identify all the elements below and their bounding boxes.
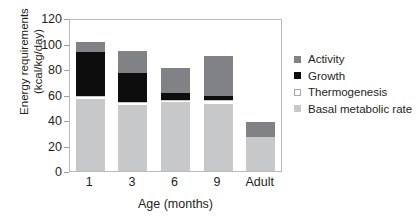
bar-segment-growth [76, 52, 105, 95]
bar-segment-basal-metabolic-rate [204, 105, 233, 171]
legend-item-basal-metabolic-rate[interactable]: Basal metabolic rate [294, 102, 418, 117]
bar-segment-basal-metabolic-rate [246, 139, 275, 171]
activity-swatch [294, 56, 301, 63]
thermogenesis-swatch [294, 89, 301, 96]
legend: ActivityGrowthThermogenesisBasal metabol… [294, 52, 418, 118]
y-axis-tick-label: 120 [41, 13, 62, 26]
basal-metabolic-rate-swatch [294, 105, 301, 112]
legend-item-growth[interactable]: Growth [294, 69, 418, 84]
bar-segment-basal-metabolic-rate [76, 100, 105, 171]
x-axis-title: Age (months) [69, 197, 282, 211]
bar-3 [118, 51, 147, 171]
legend-item-label: Thermogenesis [308, 86, 387, 98]
legend-item-label: Basal metabolic rate [308, 103, 412, 115]
y-axis-tick-label: 60 [48, 89, 62, 102]
y-axis-tick-mark [64, 172, 69, 173]
y-axis-tick-label: 0 [55, 166, 62, 179]
bar-9 [204, 56, 233, 171]
x-axis-tick-label-1: 1 [86, 176, 93, 189]
bar-segment-basal-metabolic-rate [118, 106, 147, 171]
plot-area [69, 19, 282, 172]
bar-segment-activity [76, 42, 105, 52]
x-axis-tick-label-6: 6 [171, 176, 178, 189]
x-axis-tick-label-3: 3 [128, 176, 135, 189]
x-axis-tick-label-9: 9 [214, 176, 221, 189]
bar-adult [246, 122, 275, 171]
y-axis: 020406080100120 [0, 0, 69, 222]
legend-item-thermogenesis[interactable]: Thermogenesis [294, 85, 418, 100]
y-axis-tick-label: 100 [41, 38, 62, 51]
bar-1 [76, 42, 105, 171]
legend-item-label: Activity [308, 53, 344, 65]
growth-swatch [294, 72, 301, 79]
y-axis-tick-label: 40 [48, 115, 62, 128]
y-axis-tick-label: 80 [48, 64, 62, 77]
y-axis-tick-label: 20 [48, 140, 62, 153]
bar-6 [161, 68, 190, 171]
bar-segment-activity [118, 51, 147, 73]
bar-segment-activity [161, 68, 190, 94]
bar-segment-growth [118, 73, 147, 102]
energy-requirements-chart: Energy requirements (kcal/kg/day) 020406… [0, 0, 420, 222]
x-axis-tick-label-adult: Adult [245, 176, 274, 189]
bar-segment-activity [204, 56, 233, 96]
bar-segment-activity [246, 122, 275, 137]
legend-item-label: Growth [308, 70, 345, 82]
bar-segment-basal-metabolic-rate [161, 103, 190, 171]
legend-item-activity[interactable]: Activity [294, 52, 418, 67]
